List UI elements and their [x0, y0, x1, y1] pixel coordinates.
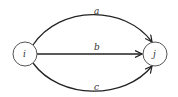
- edge-a: [33, 15, 152, 45]
- edge-c-label: c: [94, 82, 99, 92]
- graph-diagram: i j a b c: [0, 0, 178, 97]
- edge-a-label: a: [94, 6, 99, 16]
- node-i-label: i: [23, 49, 26, 59]
- edge-b-label: b: [94, 42, 100, 52]
- edge-c: [33, 63, 152, 91]
